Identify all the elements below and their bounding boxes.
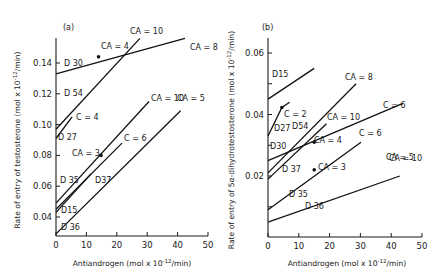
marker-label: C = 2	[284, 110, 306, 119]
y-axis-title: Rate of entry of testosterone (mol x 10-…	[12, 51, 22, 228]
marker-label: CA = 4	[101, 42, 129, 51]
marker-label: CA = 3	[72, 149, 100, 158]
x-tick-label: 20	[111, 240, 122, 250]
series-start-label: D 35	[289, 190, 308, 199]
x-tick-label: 0	[265, 241, 270, 251]
series-start-label: D30	[270, 142, 286, 151]
series-line-d36	[56, 111, 181, 234]
series-start-label: D 27	[58, 133, 77, 142]
series-end-label: CA = 8	[190, 43, 218, 52]
marker-label: CA = 4	[314, 136, 342, 145]
y-tick-label: 0.06	[33, 181, 52, 191]
series-start-label: D27	[274, 124, 290, 133]
x-tick-label: 30	[142, 240, 153, 250]
series-end-label: C = 6	[383, 101, 405, 110]
y-tick-label: 0.04	[245, 110, 264, 120]
y-tick-label: 0.04	[33, 212, 52, 222]
series-end-label: CA = 10	[130, 27, 163, 36]
x-tick-label: 40	[386, 241, 397, 251]
panel-label: (b)	[262, 23, 273, 32]
series-end-label: CA = 5	[386, 153, 414, 162]
y-tick-label: 0.02	[245, 171, 264, 181]
series-end-label: CA = 8	[345, 73, 373, 82]
y-axis-title: Rate of entry of 5α-dihydrotestosterone …	[226, 31, 236, 249]
series-start-label: D 37	[282, 165, 301, 174]
series-start-label: D15	[272, 70, 288, 79]
series-start-label: D 36	[305, 202, 324, 211]
x-tick-label: 0	[53, 240, 58, 250]
series-start-label: D 36	[61, 223, 80, 232]
x-tick-label: 50	[203, 240, 214, 250]
data-point-marker	[97, 55, 101, 59]
series-start-label: D15	[61, 206, 77, 215]
series-end-label: CA = 10	[327, 113, 360, 122]
series-end-label: C = 6	[124, 134, 146, 143]
panel-label: (a)	[63, 23, 74, 32]
data-point-marker	[312, 168, 316, 172]
series-start-label: D 30	[64, 59, 83, 68]
x-tick-label: 20	[324, 241, 335, 251]
series-start-label: D 54	[64, 89, 83, 98]
series-start-label: D54	[292, 122, 308, 131]
y-tick-label: 0.12	[33, 89, 52, 99]
x-tick-label: 10	[81, 240, 92, 250]
data-point-marker	[280, 106, 284, 110]
series-start-label: D37	[95, 176, 111, 185]
series-line-d36	[268, 176, 400, 222]
chart-panel-b: 010203040500.020.040.06(b)Antiandrogen (…	[226, 23, 427, 268]
x-tick-label: 30	[355, 241, 366, 251]
x-axis-title: Antiandrogen (mol x 10-12/min)	[73, 258, 192, 268]
chart-panel-a: 010203040500.040.060.080.100.120.14(a)An…	[12, 23, 218, 268]
series-line-d35	[268, 142, 361, 210]
series-end-label: CA = 5	[177, 94, 205, 103]
series-end-label: C = 4	[76, 113, 98, 122]
y-tick-label: 0.06	[245, 48, 264, 58]
series-end-label: C = 6	[359, 129, 381, 138]
y-tick-label: 0.10	[33, 120, 52, 130]
x-tick-label: 40	[172, 240, 183, 250]
x-tick-label: 50	[417, 241, 428, 251]
series-start-label: D 35	[60, 176, 79, 185]
y-tick-label: 0.14	[33, 58, 52, 68]
figure: 010203040500.040.060.080.100.120.14(a)An…	[0, 0, 439, 279]
x-tick-label: 10	[293, 241, 304, 251]
marker-label: CA = 3	[318, 163, 346, 172]
y-tick-label: 0.08	[33, 150, 52, 160]
x-axis-title: Antiandrogen (mol x 10-12/min)	[288, 258, 407, 268]
